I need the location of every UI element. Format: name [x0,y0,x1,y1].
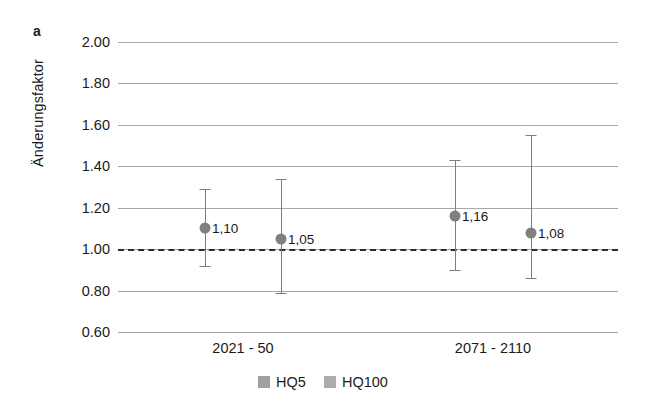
error-bar-cap [526,278,537,279]
y-tick-label: 1.00 [40,241,110,257]
y-tick-label: 0.80 [40,283,110,299]
x-tick-label: 2071 - 2110 [455,340,531,356]
x-axis-tick-labels: 2021 - 502071 - 2110 [118,340,618,364]
legend-swatch-icon [324,376,336,388]
data-point-marker [276,233,287,244]
chart-legend: HQ5HQ100 [0,374,646,390]
data-point-label: 1,10 [212,221,238,236]
error-bar-cap [200,266,211,267]
legend-swatch-icon [258,376,270,388]
y-tick-label: 1.40 [40,158,110,174]
legend-entry: HQ100 [324,374,388,390]
error-bar-cap [276,293,287,294]
error-bar [531,135,532,278]
data-point-label: 1,05 [288,231,314,246]
reference-line [118,249,618,251]
data-point-marker [526,227,537,238]
y-tick-label: 0.60 [40,324,110,340]
gridline [118,166,618,167]
error-bar-cap [276,179,287,180]
error-bar-cap [526,135,537,136]
data-point-label: 1,08 [538,225,564,240]
error-bar-cap [450,160,461,161]
x-tick-label: 2021 - 50 [212,340,273,356]
error-bar-cap [200,189,211,190]
gridline [118,42,618,43]
data-point-marker [450,211,461,222]
legend-entry: HQ5 [258,374,306,390]
error-bar-cap [450,270,461,271]
data-point-label: 1,16 [462,209,488,224]
y-tick-label: 1.80 [40,75,110,91]
legend-label: HQ100 [342,374,388,390]
gridline [118,125,618,126]
gridline [118,208,618,209]
plot-area: 1,101,161,051,08 [118,42,618,332]
y-tick-label: 1.60 [40,117,110,133]
y-axis-tick-labels: 2.001.801.601.401.201.000.800.60 [40,42,110,332]
data-point-marker [200,223,211,234]
y-tick-label: 2.00 [40,34,110,50]
legend-label: HQ5 [276,374,306,390]
gridline [118,332,618,333]
gridline [118,291,618,292]
y-tick-label: 1.20 [40,200,110,216]
figure-panel-a: a Änderungsfaktor 2.001.801.601.401.201.… [0,0,646,412]
gridline [118,83,618,84]
